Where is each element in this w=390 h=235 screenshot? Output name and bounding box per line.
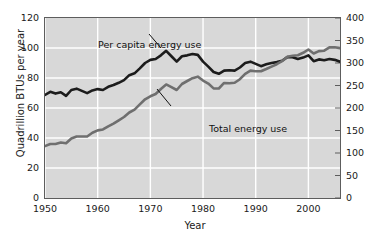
x-tick-2000: 2000 [288, 204, 328, 214]
y-tick-right-250: 250 [346, 81, 386, 91]
y-tick-right-400: 400 [346, 13, 386, 23]
x-axis-title: Year [0, 221, 390, 231]
y-tick-left-100: 100 [0, 43, 39, 53]
y-tick-right-150: 150 [346, 126, 386, 136]
x-tick-1960: 1960 [78, 204, 118, 214]
leader-line-total [157, 89, 171, 106]
annotation-total-energy-use: Total energy use [209, 124, 287, 134]
y-axis-left-title: Quadrillion BTUs per year [16, 13, 26, 173]
plot-area: Per capita energy use Total energy use [44, 17, 341, 199]
y-tick-left-20: 20 [0, 163, 39, 173]
y-tick-right-100: 100 [346, 148, 386, 158]
y-tick-left-120: 120 [0, 13, 39, 23]
x-tick-1980: 1980 [183, 204, 223, 214]
x-tick-1990: 1990 [236, 204, 276, 214]
y-tick-right-50: 50 [346, 171, 386, 181]
energy-use-chart: Per capita energy use Total energy use Q… [0, 0, 390, 235]
x-tick-1970: 1970 [130, 204, 170, 214]
y-tick-left-60: 60 [0, 103, 39, 113]
y-tick-right-300: 300 [346, 58, 386, 68]
x-tick-1950: 1950 [25, 204, 65, 214]
y-tick-left-0: 0 [0, 193, 39, 203]
y-tick-right-350: 350 [346, 36, 386, 46]
y-tick-left-80: 80 [0, 73, 39, 83]
series-line-total [45, 47, 340, 146]
y-tick-right-0: 0 [346, 193, 386, 203]
annotation-per-capita-energy-use: Per capita energy use [98, 40, 201, 50]
y-tick-right-200: 200 [346, 103, 386, 113]
series-line-per-capita [45, 51, 340, 96]
y-tick-left-40: 40 [0, 133, 39, 143]
